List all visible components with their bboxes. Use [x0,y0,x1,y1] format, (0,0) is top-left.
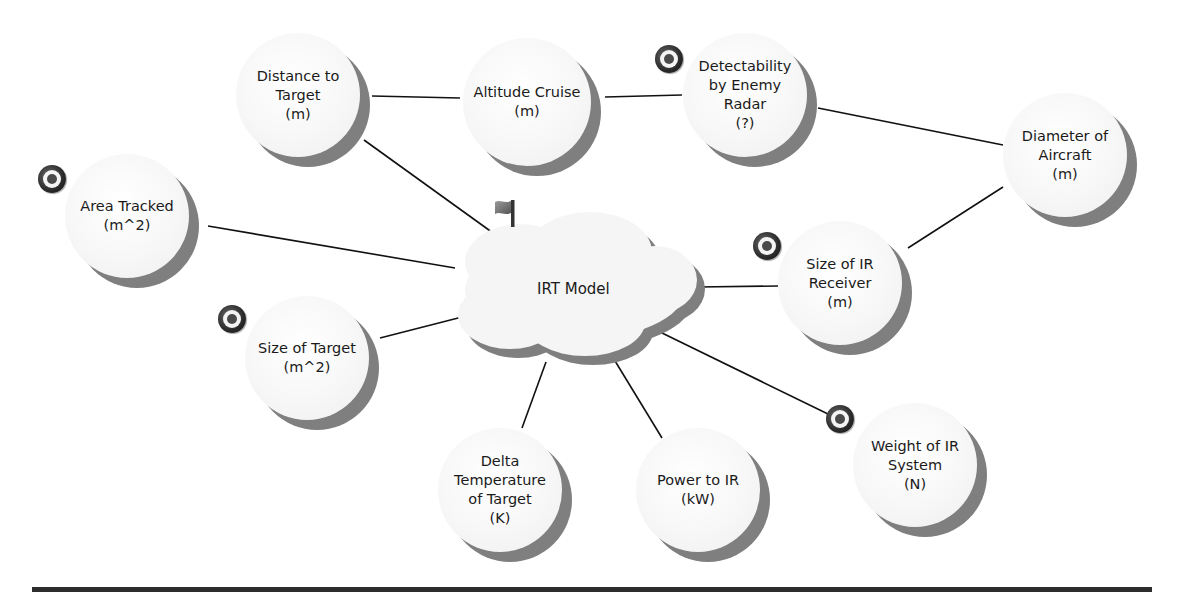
node-label: Delta Temperature of Target (K) [438,428,562,552]
target-icon [826,405,854,433]
topic-node-altitude[interactable]: Altitude Cruise (m) [463,38,603,178]
central-topic-label[interactable]: IRT Model [537,280,610,298]
topic-node-power[interactable]: Power to IR (kW) [636,428,772,564]
connector-line [908,187,1003,248]
topic-node-sizetarget[interactable]: Size of Target (m^2) [245,296,381,432]
node-label: Size of IR Receiver (m) [778,221,902,345]
bottom-horizontal-rule [32,587,1152,592]
node-label: Distance to Target (m) [236,33,360,157]
topic-node-detect[interactable]: Detectability by Enemy Radar (?) [683,33,819,169]
connector-line [612,356,662,438]
target-icon [218,305,246,333]
connector-line [522,362,546,428]
node-label: Power to IR (kW) [636,428,760,552]
topic-node-irreceiver[interactable]: Size of IR Receiver (m) [778,221,914,357]
node-label: Area Tracked (m^2) [65,154,189,278]
target-icon [38,165,66,193]
target-icon [753,232,781,260]
topic-node-distance[interactable]: Distance to Target (m) [236,33,372,169]
connector-line [372,96,460,98]
topic-node-weight[interactable]: Weight of IR System (N) [853,403,989,539]
topic-node-area[interactable]: Area Tracked (m^2) [65,154,201,290]
connector-line [605,95,682,97]
topic-node-diameter[interactable]: Diameter of Aircraft (m) [1003,93,1139,229]
connector-line [208,226,455,268]
flag-icon [493,198,517,228]
node-label: Altitude Cruise (m) [463,38,591,166]
target-icon [655,45,683,73]
connector-line [818,108,1003,145]
connector-line [698,286,778,287]
node-label: Size of Target (m^2) [245,296,369,420]
node-label: Detectability by Enemy Radar (?) [683,33,807,157]
mind-map-canvas: Distance to Target (m)Altitude Cruise (m… [0,0,1181,601]
connector-line [380,316,466,338]
node-label: Weight of IR System (N) [853,403,977,527]
node-label: Diameter of Aircraft (m) [1003,93,1127,217]
topic-node-delta[interactable]: Delta Temperature of Target (K) [438,428,574,564]
